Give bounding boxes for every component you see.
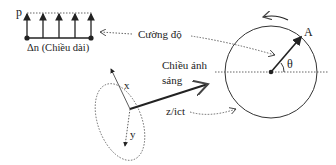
- theta-arc: [281, 63, 284, 72]
- z-label: z/ict: [166, 105, 185, 117]
- amplitude-bar-group: p Δn (Chiều dài): [16, 5, 94, 54]
- xy-plane-group: x y: [86, 69, 208, 165]
- x-label: x: [124, 79, 130, 91]
- intensity-arrow-left: [100, 32, 132, 34]
- delta-n-label: Δn (Chiều dài): [27, 42, 90, 54]
- rotation-arrow: [263, 16, 288, 20]
- p-label: p: [16, 5, 22, 19]
- center-dot: [269, 70, 274, 75]
- light-direction-label-1: Chiều ánh: [162, 59, 207, 71]
- endpoint-dot: [24, 35, 29, 40]
- polarization-diagram: p Δn (Chiều dài) Cường độ θ A x y Chiều …: [0, 0, 336, 165]
- intensity-label: Cường độ: [138, 28, 182, 40]
- xy-plane-ellipse: [86, 77, 155, 165]
- endpoint-dot: [88, 35, 93, 40]
- z-arrow: [190, 109, 236, 114]
- light-direction-label-2: sáng: [162, 74, 183, 86]
- A-label: A: [304, 25, 313, 39]
- polarization-circle-group: θ A: [215, 16, 328, 118]
- theta-label: θ: [287, 57, 293, 71]
- vector-A: [271, 37, 301, 72]
- y-label: y: [130, 128, 136, 140]
